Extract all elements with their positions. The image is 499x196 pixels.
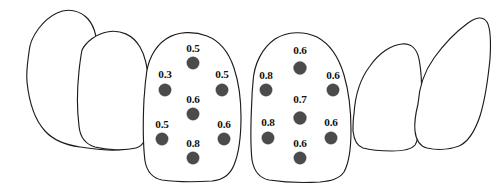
measurement-dot[interactable] bbox=[218, 133, 230, 145]
measurement-dot[interactable] bbox=[262, 132, 274, 144]
measurement-dot[interactable] bbox=[187, 108, 199, 120]
measurement-dot[interactable] bbox=[216, 84, 228, 96]
dental-diagram: 0.5 0.3 0.5 0.6 0.5 0.6 bbox=[0, 0, 499, 196]
measurement-dot[interactable] bbox=[187, 152, 199, 164]
measurement-dot[interactable] bbox=[294, 152, 306, 164]
measurement-label: 0.6 bbox=[293, 44, 307, 56]
measurement-label: 0.6 bbox=[217, 118, 231, 130]
measurement-label: 0.6 bbox=[293, 137, 307, 149]
measurement-label: 0.6 bbox=[186, 93, 200, 105]
measurement-dot[interactable] bbox=[294, 112, 307, 125]
measurement-label: 0.5 bbox=[186, 42, 200, 54]
measurement-label: 0.3 bbox=[158, 68, 172, 80]
measurement-dot[interactable] bbox=[294, 62, 307, 75]
measurement-label: 0.8 bbox=[186, 137, 200, 149]
measurement-label: 0.8 bbox=[259, 69, 273, 81]
measurement-label: 0.8 bbox=[261, 116, 275, 128]
measurement-dot[interactable] bbox=[156, 133, 168, 145]
measurement-dot[interactable] bbox=[325, 132, 337, 144]
measurement-dot[interactable] bbox=[159, 84, 171, 96]
measurement-dot[interactable] bbox=[187, 57, 199, 69]
measurement-dot[interactable] bbox=[260, 84, 272, 96]
tooth-chart-svg: 0.5 0.3 0.5 0.6 0.5 0.6 bbox=[0, 0, 499, 196]
measurement-label: 0.6 bbox=[324, 116, 338, 128]
tooth-outline-right-lateral-incisor[interactable] bbox=[353, 44, 422, 151]
measurement-label: 0.5 bbox=[155, 118, 169, 130]
tooth-outline-right-canine[interactable] bbox=[415, 18, 491, 149]
measurement-label: 0.5 bbox=[215, 68, 229, 80]
tooth-outline-left-lateral-incisor[interactable] bbox=[78, 31, 150, 150]
measurement-dot[interactable] bbox=[327, 84, 339, 96]
measurement-label: 0.6 bbox=[326, 69, 340, 81]
measurement-label: 0.7 bbox=[293, 93, 307, 105]
